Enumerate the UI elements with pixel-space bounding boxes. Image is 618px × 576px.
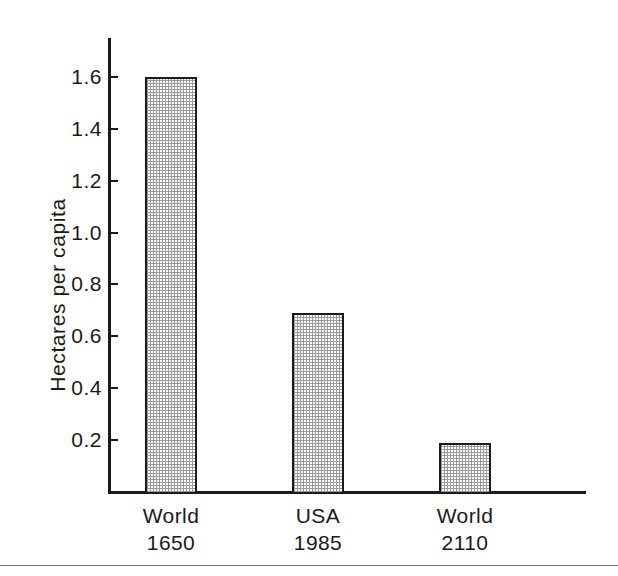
tick-mark <box>111 76 118 78</box>
tick-label: 1.2 <box>44 170 102 191</box>
category-label-2: World2110 <box>395 503 535 557</box>
bar-2 <box>439 443 491 494</box>
tick-label: 1.0 <box>44 222 102 243</box>
category-year: 1985 <box>248 530 388 557</box>
category-label-1: USA1985 <box>248 503 388 557</box>
tick-mark <box>111 283 118 285</box>
tick-mark <box>111 387 118 389</box>
category-label-0: World1650 <box>101 503 241 557</box>
footer-rule <box>0 565 618 566</box>
tick-label: 1.4 <box>44 118 102 139</box>
tick-label: 0.6 <box>44 325 102 346</box>
tick-label: 0.8 <box>44 273 102 294</box>
bar-0 <box>145 77 197 494</box>
tick-mark <box>111 335 118 337</box>
tick-label: 1.6 <box>44 66 102 87</box>
tick-mark <box>111 180 118 182</box>
category-name: World <box>395 503 535 530</box>
category-name: World <box>101 503 241 530</box>
tick-label: 0.4 <box>44 377 102 398</box>
category-year: 1650 <box>101 530 241 557</box>
tick-mark <box>111 128 118 130</box>
tick-label: 0.2 <box>44 429 102 450</box>
bar-chart-figure: Hectares per capita 0.20.40.60.81.01.21.… <box>0 0 618 576</box>
y-axis-line <box>108 38 111 494</box>
category-name: USA <box>248 503 388 530</box>
tick-mark <box>111 232 118 234</box>
category-year: 2110 <box>395 530 535 557</box>
bar-1 <box>292 313 344 494</box>
tick-mark <box>111 439 118 441</box>
